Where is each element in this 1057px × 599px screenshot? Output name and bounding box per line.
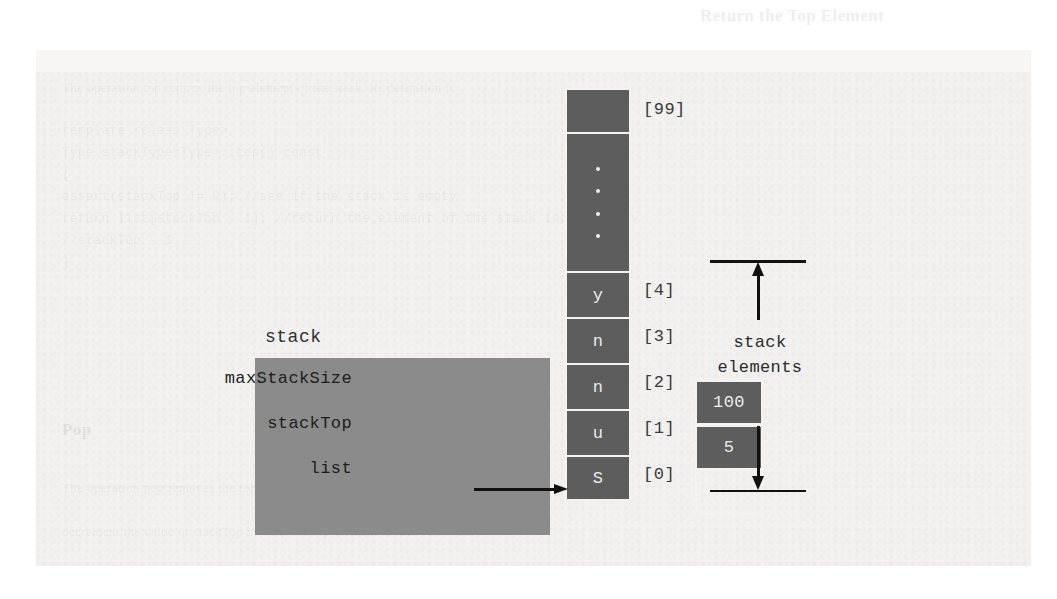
ellipsis-dot <box>596 167 600 171</box>
field-label-list: list <box>310 448 352 490</box>
brace-cap-bottom <box>710 490 806 493</box>
array-index-label-1: [1] <box>643 419 675 438</box>
page-surface-top-band <box>36 50 1031 72</box>
ghost-line-0: The operation top returns the top elemen… <box>62 80 455 96</box>
array-cell-value: u <box>593 424 604 443</box>
ellipsis-dot <box>596 189 600 193</box>
array-cell-1: u <box>565 409 631 455</box>
ghost-line-3: { <box>62 168 70 182</box>
array-index-label-0: [0] <box>643 465 675 484</box>
ghost-line-4: assert(stackTop != 0); //see if the stac… <box>62 190 457 204</box>
brace-arrowhead-down <box>752 476 764 490</box>
ghost-line-1: template <class Type> <box>62 124 228 138</box>
stack-object-panel: maxStackSize 100 stackTop 5 list <box>255 358 550 535</box>
ghost-heading: Return the Top Element <box>700 6 884 26</box>
array-index-label-4: [4] <box>643 281 675 300</box>
ghost-line-2: Type stackType<Type>::top() const <box>62 146 323 160</box>
array-cell-value: S <box>593 469 604 488</box>
ellipsis-dot <box>596 212 600 216</box>
field-label-stacktop: stackTop <box>267 403 352 445</box>
ghost-line-7: } <box>62 256 70 270</box>
field-label-maxstacksize: maxStackSize <box>225 358 352 400</box>
arrow-head <box>554 484 568 494</box>
array-cell-4: y <box>565 271 631 317</box>
array-cell-3: n <box>565 317 631 363</box>
array-index-label-99: [99] <box>643 100 686 119</box>
array-cell-99 <box>565 88 631 132</box>
brace-shaft-upper <box>757 266 760 320</box>
array-cell-value: n <box>593 378 604 397</box>
stack-array-column: y n n u S <box>565 88 631 501</box>
ghost-line-5: return list[stackTop - 1]; //return the … <box>62 212 639 226</box>
figure-root: Return the Top Element The operation top… <box>0 0 1057 599</box>
stack-elements-label-line2: elements <box>710 355 810 380</box>
arrow-shaft <box>474 488 558 491</box>
stack-elements-label-line1: stack <box>710 330 810 355</box>
array-cell-0: S <box>565 455 631 501</box>
ellipsis-dot <box>596 234 600 238</box>
array-cell-2: n <box>565 363 631 409</box>
array-index-label-3: [3] <box>643 327 675 346</box>
ghost-line-6: //stackTop - 1 <box>62 234 173 248</box>
ghost-line-8: Pop <box>62 420 92 440</box>
array-cell-ellipsis <box>565 132 631 271</box>
array-cell-value: n <box>593 332 604 351</box>
stack-object-label: stack <box>265 327 322 347</box>
stack-elements-label: stack elements <box>710 330 810 380</box>
list-pointer-arrow-icon <box>474 484 568 496</box>
array-cell-value: y <box>593 286 604 305</box>
array-index-label-2: [2] <box>643 373 675 392</box>
